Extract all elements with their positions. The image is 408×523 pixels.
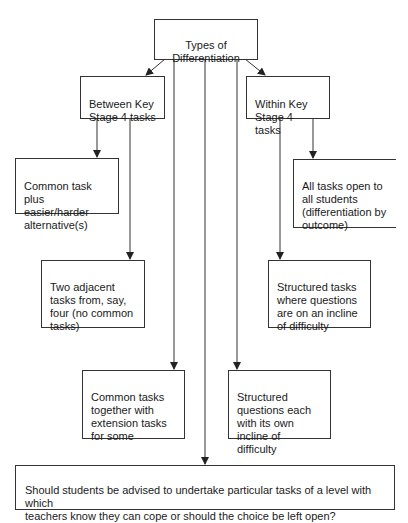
node-question-advice: Should students be advised to undertake …	[15, 465, 395, 510]
node-two-adjacent-label: Two adjacent tasks from, say, four (no c…	[50, 281, 133, 332]
arrow-root-to-between	[146, 59, 165, 75]
node-common-tasks-extension-label: Common tasks together with extension tas…	[91, 391, 167, 442]
node-all-tasks-label: All tasks open to all students (differen…	[302, 180, 386, 231]
node-structured-tasks-label: Structured tasks where questions are on …	[277, 281, 358, 332]
node-between-key-stage-4: Between Key Stage 4 tasks	[80, 76, 165, 119]
arrow-root-to-within	[245, 59, 265, 75]
root-node-label: Types of Differentiation	[172, 39, 240, 64]
node-common-tasks-extension: Common tasks together with extension tas…	[82, 370, 185, 439]
node-between-label: Between Key Stage 4 tasks	[89, 98, 156, 123]
node-common-task-label: Common task plus easier/harder alternati…	[24, 180, 92, 231]
node-within-key-stage-4: Within Key Stage 4 tasks	[246, 76, 330, 119]
node-structured-tasks-incline: Structured tasks where questions are on …	[268, 260, 371, 328]
node-structured-questions-each: Structured questions each with its own i…	[228, 370, 331, 439]
root-node-types-of-differentiation: Types of Differentiation	[154, 19, 258, 60]
node-two-adjacent-tasks: Two adjacent tasks from, say, four (no c…	[41, 260, 145, 328]
node-all-tasks-open: All tasks open to all students (differen…	[293, 159, 396, 228]
node-common-task-alternatives: Common task plus easier/harder alternati…	[15, 158, 119, 214]
node-question-label: Should students be advised to undertake …	[25, 484, 371, 522]
